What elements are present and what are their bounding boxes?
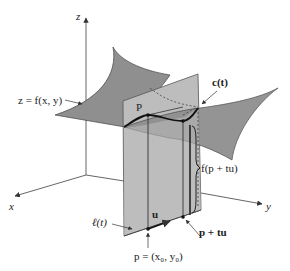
x-axis-label: x — [8, 200, 14, 212]
y-axis-label: y — [265, 200, 271, 212]
point-p — [146, 227, 150, 231]
svg-text:ℓ(t): ℓ(t) — [92, 216, 107, 229]
label-surface: z = f(x, y) — [18, 94, 82, 107]
point-p-tu — [181, 215, 185, 219]
svg-text:p + tu: p + tu — [199, 226, 227, 238]
label-curve: c(t) — [202, 76, 228, 104]
label-u: u — [152, 208, 158, 220]
label-moved-point: p + tu — [186, 220, 227, 238]
point-P — [146, 113, 150, 117]
y-axis-back — [86, 175, 124, 181]
svg-text:p = (x₀, y₀): p = (x₀, y₀) — [134, 250, 183, 263]
directional-derivative-diagram: z x y z = f(x, y) P c — [0, 0, 290, 271]
z-axis: z — [75, 10, 86, 175]
point-curve-t — [181, 119, 185, 123]
svg-text:z = f(x, y): z = f(x, y) — [18, 94, 62, 107]
label-height: f(p + tu) — [201, 162, 238, 175]
y-axis: y — [201, 193, 271, 212]
label-P: P — [136, 101, 142, 113]
svg-text:c(t): c(t) — [212, 76, 228, 89]
label-base-point: p = (x₀, y₀) — [134, 233, 183, 263]
x-axis: x — [8, 175, 86, 212]
z-axis-label: z — [75, 10, 81, 22]
